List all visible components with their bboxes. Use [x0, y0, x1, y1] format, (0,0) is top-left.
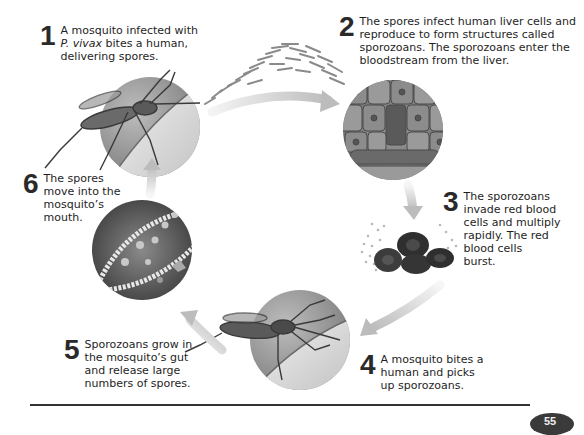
page-divider-rule — [30, 404, 530, 406]
step-3-number: 3 — [443, 190, 459, 214]
liver-cells-illustration — [340, 80, 452, 186]
step-6-number: 6 — [23, 172, 39, 196]
step-1: 1 A mosquito infected with P. vivax bite… — [40, 24, 198, 63]
step-1-text-part: A mosquito infected with — [61, 24, 198, 37]
arrow-step1-to-step2 — [212, 90, 340, 112]
arrow-step2-to-step3 — [403, 185, 423, 220]
step-2-text: The spores infect human liver cells and … — [360, 15, 576, 67]
page-number: 55 — [544, 415, 556, 427]
step-2: 2 The spores infect human liver cells an… — [339, 15, 576, 67]
step-1-number: 1 — [40, 24, 56, 48]
arrow-step3-to-step4 — [360, 285, 440, 336]
species-name: P. vivax — [61, 37, 102, 50]
step-2-number: 2 — [339, 15, 355, 39]
step-4-text: A mosquito bites a human and picks up sp… — [381, 353, 484, 392]
step-4-number: 4 — [360, 353, 376, 377]
step-3: 3 The sporozoans invade red blood cells … — [443, 190, 561, 268]
step-3-text: The sporozoans invade red blood cells an… — [464, 190, 561, 268]
step-4: 4 A mosquito bites a human and picks up … — [360, 353, 483, 392]
step-5-number: 5 — [64, 338, 80, 362]
step-1-text: A mosquito infected with P. vivax bites … — [61, 24, 198, 63]
step-5: 5 Sporozoans grow in the mosquito’s gut … — [64, 338, 192, 390]
step-6-text: The spores move into the mosquito’s mout… — [44, 172, 121, 224]
page-number-tab: 55 — [530, 413, 574, 435]
step-5-text: Sporozoans grow in the mosquito’s gut an… — [85, 338, 193, 390]
step-6: 6 The spores move into the mosquito’s mo… — [23, 172, 120, 224]
